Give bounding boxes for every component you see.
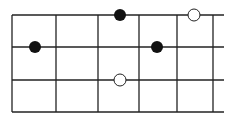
open-note-dot — [188, 9, 200, 21]
filled-note-dot — [151, 41, 163, 53]
filled-note-dot — [114, 9, 126, 21]
open-note-dot — [114, 74, 126, 86]
strings — [12, 15, 224, 112]
filled-note-dot — [29, 41, 41, 53]
frets — [12, 15, 213, 112]
fretboard-diagram — [0, 0, 236, 118]
